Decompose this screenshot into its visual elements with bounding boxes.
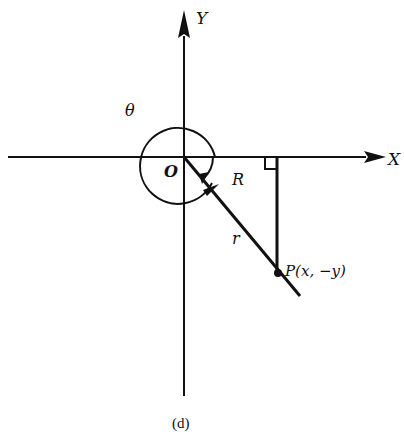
point-p <box>274 269 282 277</box>
reference-angle-label: R <box>231 170 244 189</box>
x-axis <box>8 151 386 163</box>
theta-arc <box>140 128 219 204</box>
right-angle-marker <box>265 157 277 169</box>
theta-label: θ <box>125 101 135 120</box>
origin-label: O <box>164 162 178 181</box>
trig-diagram: Y X O θ R r P(x, −y) (d) <box>0 0 404 438</box>
reference-angle-arc <box>199 157 213 184</box>
radius-label: r <box>232 229 241 248</box>
point-label: P(x, −y) <box>284 262 346 280</box>
y-axis-arrow-icon <box>178 10 190 38</box>
figure-caption: (d) <box>172 415 190 432</box>
x-axis-arrow-icon <box>364 151 386 163</box>
x-axis-label: X <box>386 149 401 169</box>
y-axis-label: Y <box>196 8 209 28</box>
